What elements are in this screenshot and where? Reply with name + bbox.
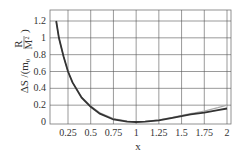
y-tick-label: 0.8 xyxy=(34,49,47,60)
x-tick-label: 1.75 xyxy=(196,127,214,138)
y-axis-label: ΔS /(m0 R M2 ) xyxy=(12,29,34,93)
y-tick-label: 0 xyxy=(41,116,46,127)
x-tick-label: 2 xyxy=(225,127,230,138)
x-tick-label: 1 xyxy=(134,127,139,138)
x-tick-label: 1.5 xyxy=(175,127,188,138)
x-axis-ticks: 0.250.50.7511.251.51.752 xyxy=(59,127,229,138)
svg-text:): ) xyxy=(18,29,31,33)
y-tick-label: 0.4 xyxy=(34,82,47,93)
plot-frame xyxy=(50,10,231,124)
line-chart: 00.20.40.60.811.2 0.250.50.7511.251.51.7… xyxy=(0,0,239,158)
x-tick-label: 0.5 xyxy=(84,127,97,138)
y-tick-label: 1 xyxy=(41,32,46,43)
y-tick-label: 0.6 xyxy=(34,66,47,77)
y-axis-ticks: 00.20.40.60.811.2 xyxy=(34,15,47,127)
svg-text:ΔS /(m0: ΔS /(m0 xyxy=(18,58,32,93)
x-tick-label: 1.25 xyxy=(150,127,168,138)
x-axis-label: x xyxy=(135,140,141,152)
x-tick-label: 0.25 xyxy=(59,127,77,138)
svg-text:M2: M2 xyxy=(22,37,34,50)
y-tick-label: 0.2 xyxy=(34,99,47,110)
x-tick-label: 0.75 xyxy=(105,127,123,138)
y-tick-label: 1.2 xyxy=(34,15,47,26)
